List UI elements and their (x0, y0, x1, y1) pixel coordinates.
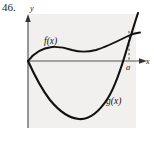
figure-container: 46. y x f(x) g(x) a (0, 0, 154, 143)
graph-plot: y x f(x) g(x) a (0, 0, 154, 143)
curve-g-label: g(x) (106, 96, 121, 107)
curve-f-label: f(x) (44, 36, 57, 47)
intersection-x-label: a (126, 62, 130, 72)
y-axis-label: y (29, 4, 34, 13)
x-axis-label: x (145, 57, 150, 66)
